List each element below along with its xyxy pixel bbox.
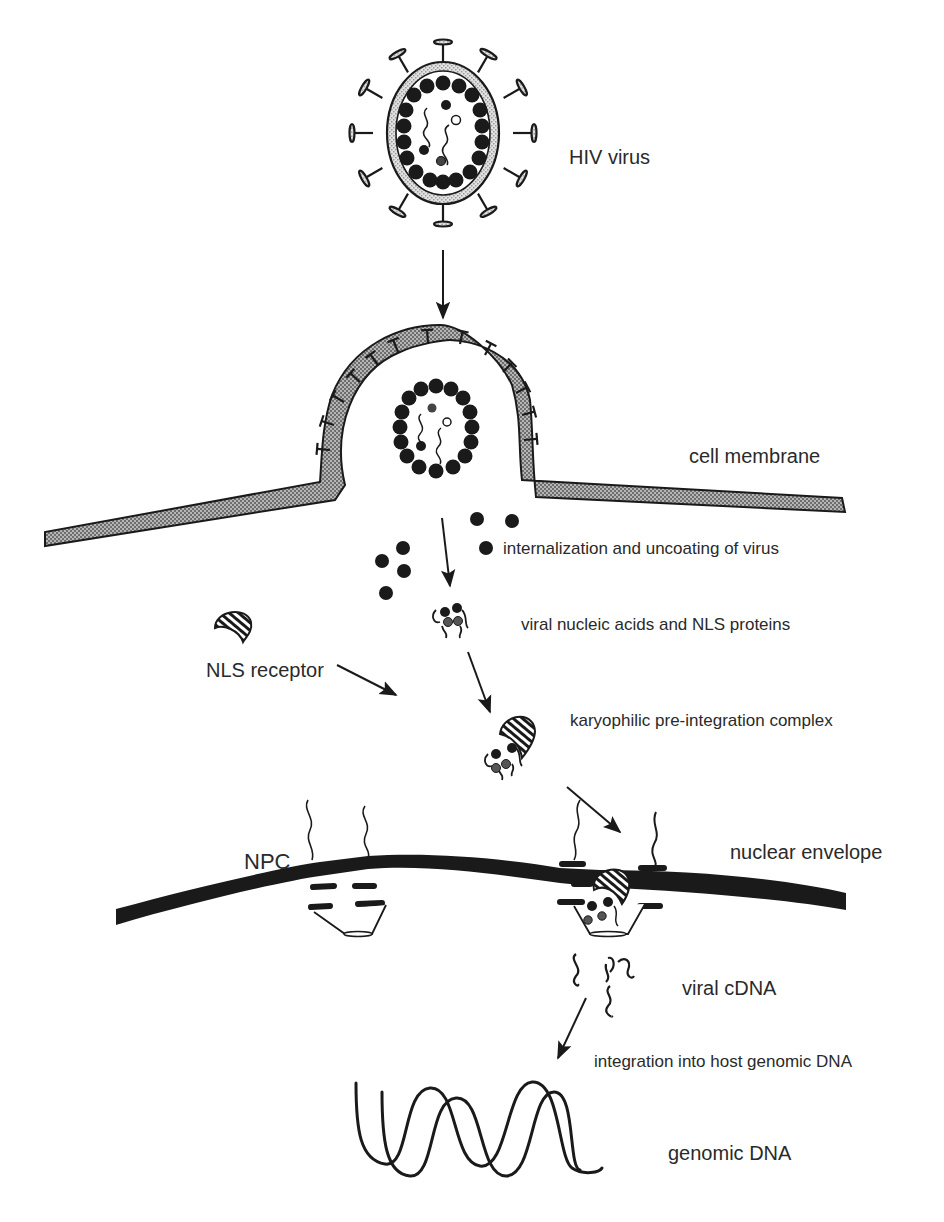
label-hiv-virus: HIV virus	[569, 147, 650, 167]
label-npc: NPC	[244, 851, 290, 873]
arrow-complex-to-npc	[567, 787, 620, 832]
hiv-virus-icon	[350, 40, 537, 227]
viral-nucleic-acids-icon	[433, 603, 468, 638]
label-genomic-dna: genomic DNA	[668, 1143, 791, 1163]
diagram-canvas	[0, 0, 944, 1222]
label-viral-nucleic-acids: viral nucleic acids and NLS proteins	[521, 616, 790, 633]
genomic-dna-icon	[356, 1082, 602, 1176]
arrow-uncoating	[442, 518, 450, 586]
arrow-cdna-to-genome	[558, 998, 586, 1058]
label-karyophilic-complex: karyophilic pre-integration complex	[570, 712, 833, 729]
arrow-to-complex	[468, 652, 490, 712]
nuclear-pore-complex-right-icon	[560, 800, 664, 937]
label-integration: integration into host genomic DNA	[594, 1053, 852, 1070]
label-cell-membrane: cell membrane	[689, 446, 820, 466]
label-internalization: internalization and uncoating of virus	[503, 540, 779, 557]
label-nls-receptor: NLS receptor	[206, 660, 324, 680]
pre-integration-complex-icon	[485, 717, 535, 780]
nuclear-envelope-icon	[116, 855, 846, 925]
cell-membrane-icon	[45, 325, 845, 546]
label-viral-cdna: viral cDNA	[682, 978, 776, 998]
arrow-receptor-to-complex	[337, 665, 396, 695]
label-nuclear-envelope: nuclear envelope	[730, 842, 882, 862]
nls-receptor-icon	[215, 612, 251, 642]
